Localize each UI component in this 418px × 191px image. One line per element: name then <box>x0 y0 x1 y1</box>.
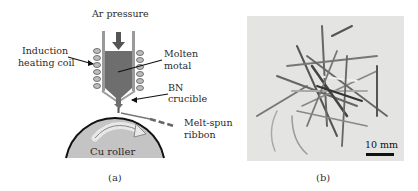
crucible-wall-left <box>102 31 105 91</box>
crucible-wall-right <box>132 31 135 91</box>
induction-coil-right <box>137 51 144 91</box>
label-molten-1: Molten <box>164 48 198 59</box>
label-bn-1: BN <box>168 82 183 93</box>
label-molten-2: motal <box>164 60 191 71</box>
label-induction-2: heating coil <box>18 57 75 68</box>
molten-metal <box>105 51 132 98</box>
caption-a: (a) <box>108 172 122 183</box>
ribbon-line <box>150 119 174 126</box>
label-induction-1: Induction <box>22 45 68 56</box>
pressure-arrow-icon <box>116 32 121 42</box>
ribbon-photograph: 10 mm <box>247 16 404 161</box>
scale-bar <box>366 153 394 156</box>
caption-b: (b) <box>316 172 330 183</box>
label-cu-roller: Cu roller <box>90 146 135 157</box>
label-ar-pressure: Ar pressure <box>92 8 149 19</box>
scale-label: 10 mm <box>365 139 398 150</box>
panel-a-schematic: Ar pressure Induction heating coil Molte… <box>0 0 210 191</box>
label-bn-2: crucible <box>168 93 207 104</box>
induction-coil-left <box>94 49 101 89</box>
panel-b-photo: 10 mm (b) <box>210 0 418 191</box>
